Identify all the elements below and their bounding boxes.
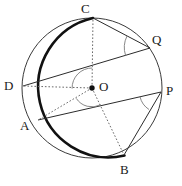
center-point-O bbox=[89, 85, 94, 90]
radius-OD bbox=[23, 86, 92, 88]
point-label-Q: Q bbox=[152, 33, 161, 46]
circle-figure-svg bbox=[0, 0, 182, 186]
point-label-D: D bbox=[4, 79, 13, 92]
point-label-O: O bbox=[99, 80, 108, 93]
angle-mark-at-P bbox=[140, 97, 149, 110]
point-label-B: B bbox=[120, 163, 129, 176]
angle-mark-AOB-at-O bbox=[76, 98, 100, 106]
angle-mark-COD-at-O bbox=[72, 68, 92, 89]
angle-mark-at-Q bbox=[124, 36, 127, 56]
geometry-diagram: C Q P B A D O bbox=[0, 0, 182, 186]
radius-OB bbox=[92, 88, 124, 155]
chord-BP bbox=[124, 92, 161, 155]
point-label-A: A bbox=[20, 119, 29, 132]
point-label-C: C bbox=[81, 2, 90, 15]
radius-OA bbox=[38, 88, 92, 120]
point-label-P: P bbox=[166, 84, 173, 97]
chord-CQ bbox=[93, 18, 150, 48]
radius-OC bbox=[92, 18, 93, 88]
chord-AP bbox=[38, 92, 161, 120]
